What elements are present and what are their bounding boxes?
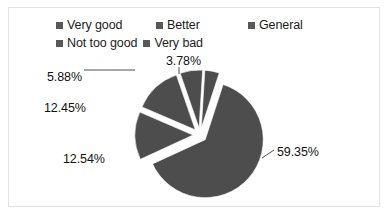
legend-label: Very good — [67, 19, 122, 32]
legend-item-general[interactable]: General — [248, 19, 303, 32]
data-label-general: 12.45% — [44, 101, 86, 115]
legend-item-very-bad[interactable]: Very bad — [143, 37, 203, 50]
legend-swatch-icon — [143, 40, 150, 47]
data-label-better: 12.54% — [63, 152, 105, 166]
legend-label: General — [259, 19, 303, 32]
legend-label: Very bad — [154, 37, 203, 50]
legend-swatch-icon — [156, 22, 163, 29]
legend-label: Better — [167, 19, 200, 32]
data-label-not-too-good: 5.88% — [47, 70, 82, 84]
data-label-very-bad: 3.78% — [166, 54, 201, 68]
legend-label: Not too good — [67, 37, 137, 50]
legend-row-1: Very good Better General — [56, 16, 356, 34]
legend-item-very-good[interactable]: Very good — [56, 19, 152, 32]
legend-item-not-too-good[interactable]: Not too good — [56, 37, 137, 50]
chart-legend: Very good Better General Not too good Ve… — [56, 16, 356, 52]
legend-swatch-icon — [56, 40, 63, 47]
legend-swatch-icon — [56, 22, 63, 29]
legend-row-2: Not too good Very bad — [56, 34, 356, 52]
legend-item-better[interactable]: Better — [156, 19, 244, 32]
legend-swatch-icon — [248, 22, 255, 29]
pie-chart-figure: Very good Better General Not too good Ve… — [0, 0, 389, 216]
data-label-very-good: 59.35% — [277, 145, 319, 159]
